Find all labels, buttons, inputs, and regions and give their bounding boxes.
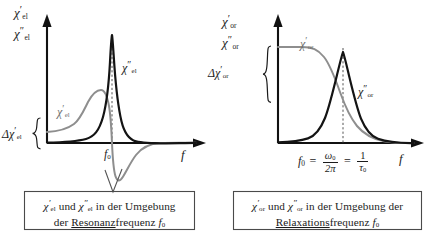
caption-line-2: Relaxationsfrequenz f0	[235, 215, 420, 231]
caption-line-2: der Resonanzfrequenz f0	[26, 215, 193, 231]
caption-resonance: χ′el und χ″el in der Umgebung der Resona…	[26, 197, 193, 231]
x-axis-label-left: f	[181, 148, 185, 161]
caption-line-1: χ′el und χ″el in der Umgebung	[26, 197, 193, 215]
y-axis-label-real-el: χ′el	[14, 5, 28, 20]
x-axis-label-right: f	[399, 152, 403, 165]
curve-label-chi-real-el: χ′el	[57, 104, 70, 119]
curve-label-chi-imag-or: χ″or	[358, 84, 373, 99]
one-over-tau: 1 τ0	[357, 150, 368, 174]
delta-brace-or	[263, 46, 271, 102]
delta-chi-label-or: Δχ′or	[208, 65, 229, 80]
figure-root: χ′el χ″el χ′el χ″el Δχ′el f0 f χ′el und …	[0, 0, 436, 240]
omega-over-two-pi: ω0 2π	[323, 150, 338, 174]
y-axis-label-imag-el: χ″el	[14, 26, 30, 41]
delta-chi-label-el: Δχ′el	[2, 126, 22, 141]
caption-line-1: χ′or und χ″or in der Umgebung der	[235, 197, 420, 215]
x-tick-label-f0-left: f0	[104, 148, 111, 161]
y-axis	[273, 14, 282, 143]
curve-label-chi-real-or: χ′or	[300, 36, 313, 51]
curve-chi-imag-or	[278, 52, 414, 143]
delta-brace-el	[33, 118, 41, 149]
curve-label-chi-imag-el: χ″el	[122, 60, 137, 75]
y-axis-label-real-or: χ′or	[222, 14, 237, 29]
y-axis	[42, 14, 51, 143]
panel-relaxation: χ′or χ″or χ′or χ″or Δχ′or f0 = ω0 2π = 1	[218, 0, 436, 240]
y-axis-label-imag-or: χ″or	[222, 35, 239, 50]
f0-formula: f0 = ω0 2π = 1 τ0	[298, 150, 370, 174]
panel-resonance: χ′el χ″el χ′el χ″el Δχ′el f0 f χ′el und …	[0, 0, 218, 240]
caption-relaxation: χ′or und χ″or in der Umgebung der Relaxa…	[235, 197, 420, 231]
